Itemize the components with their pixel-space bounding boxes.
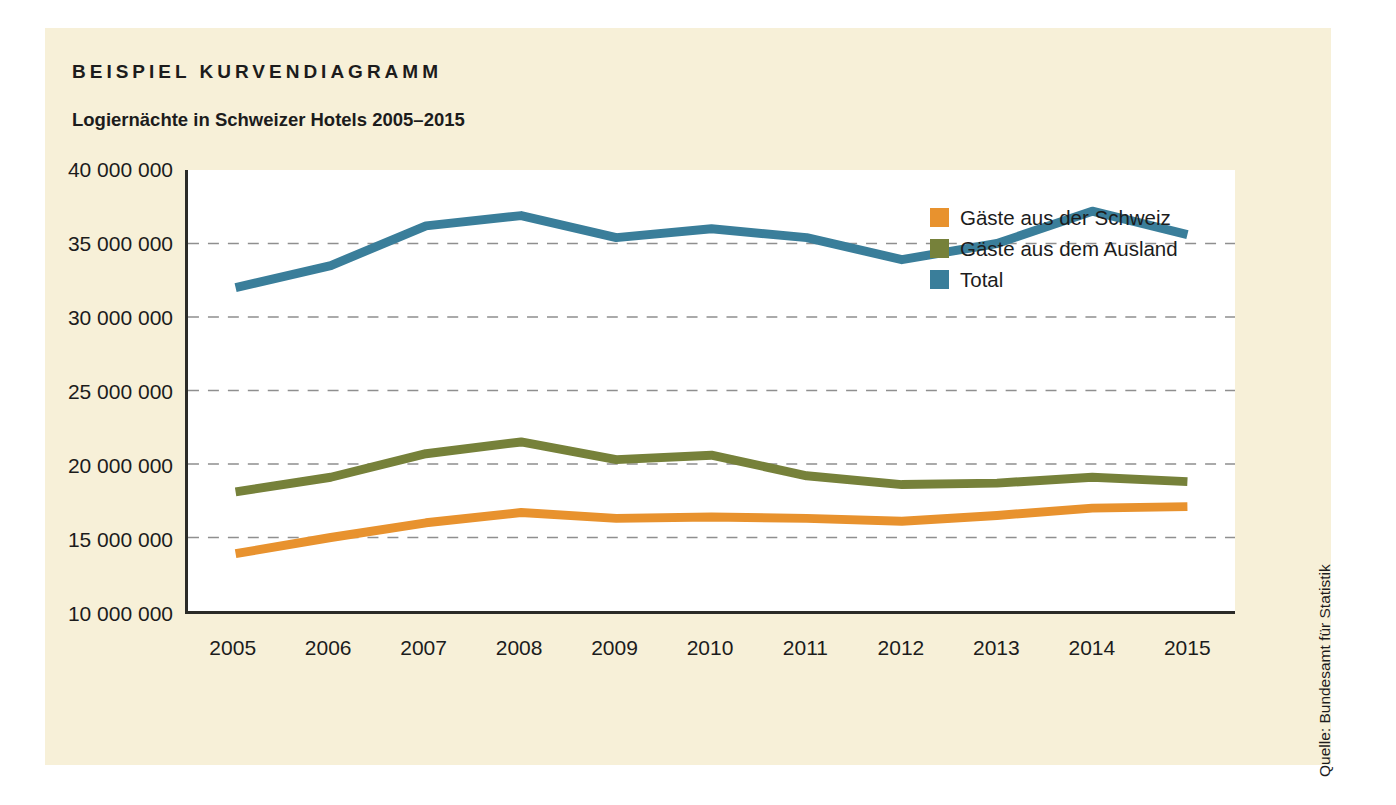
- x-axis-tick-label: 2014: [1068, 636, 1115, 660]
- x-axis-tick-label: 2013: [973, 636, 1020, 660]
- figure-panel: BEISPIEL KURVENDIAGRAMM Logiernächte in …: [45, 28, 1331, 765]
- chart-legend: Gäste aus der SchweizGäste aus dem Ausla…: [930, 203, 1178, 296]
- y-axis-tick-label: 35 000 000: [68, 232, 173, 256]
- legend-item[interactable]: Total: [930, 265, 1178, 294]
- x-axis-tick-label: 2009: [591, 636, 638, 660]
- source-note: Quelle: Bundesamt für Statistik: [1316, 564, 1334, 777]
- y-axis-tick-label: 25 000 000: [68, 380, 173, 404]
- y-axis-tick-label: 15 000 000: [68, 528, 173, 552]
- legend-item-label: Gäste aus dem Ausland: [960, 237, 1178, 261]
- x-axis-tick-label: 2015: [1164, 636, 1211, 660]
- legend-item[interactable]: Gäste aus der Schweiz: [930, 203, 1178, 232]
- legend-item[interactable]: Gäste aus dem Ausland: [930, 234, 1178, 263]
- x-axis-tick-label: 2006: [305, 636, 352, 660]
- series-line: [236, 442, 1188, 492]
- x-axis-tick-label: 2007: [400, 636, 447, 660]
- x-axis-tick-label: 2011: [783, 636, 828, 660]
- legend-swatch-icon: [930, 270, 949, 289]
- x-axis-tick-label: 2010: [687, 636, 734, 660]
- legend-swatch-icon: [930, 239, 949, 258]
- legend-item-label: Total: [960, 268, 1003, 292]
- figure-kicker: BEISPIEL KURVENDIAGRAMM: [72, 61, 442, 83]
- y-axis-tick-label: 10 000 000: [68, 602, 173, 626]
- series-line: [236, 507, 1188, 554]
- legend-swatch-icon: [930, 208, 949, 227]
- y-axis-tick-label: 30 000 000: [68, 306, 173, 330]
- figure-subtitle: Logiernächte in Schweizer Hotels 2005–20…: [72, 109, 465, 131]
- y-axis-tick-label: 20 000 000: [68, 454, 173, 478]
- x-axis-tick-label: 2012: [878, 636, 925, 660]
- legend-item-label: Gäste aus der Schweiz: [960, 206, 1171, 230]
- x-axis-tick-label: 2005: [209, 636, 256, 660]
- y-axis-tick-label: 40 000 000: [68, 158, 173, 182]
- x-axis-tick-label: 2008: [496, 636, 543, 660]
